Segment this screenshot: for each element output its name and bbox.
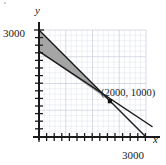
intersection-point-label: (2000, 1000)	[101, 88, 155, 99]
x-axis-tick-label-3000: 3000	[122, 150, 144, 161]
plot-canvas	[0, 0, 166, 165]
intersection-marker	[108, 99, 112, 103]
x-axis-label: x	[153, 134, 158, 145]
y-axis-label: y	[35, 5, 40, 16]
graph-figure: y x 3000 3000 (2000, 1000)	[0, 0, 166, 165]
y-axis-tick-label-3000: 3000	[3, 28, 25, 39]
